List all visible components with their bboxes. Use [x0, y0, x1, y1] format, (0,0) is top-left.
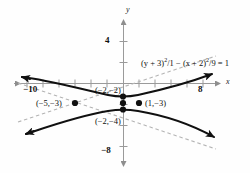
equation-numerator-1: (y + 3)	[141, 58, 164, 68]
point-right	[136, 100, 142, 106]
x-axis-label: x	[226, 78, 230, 86]
y-axis-label: y	[126, 6, 130, 14]
y-tick-label-minus-8: −8	[101, 146, 111, 155]
y-tick-label-4: 4	[105, 36, 110, 45]
x-tick-label-8: 8	[198, 85, 203, 94]
hyperbola-figure: y x 4 −8 −10 8 (−2,−2) (−2,−4) (−5,−3) (…	[0, 0, 250, 173]
point-center	[120, 100, 126, 106]
point-vertex-bottom	[120, 106, 126, 112]
equation-numerator-2: (x + 2)	[183, 58, 206, 68]
point-label-top: (−2,−2)	[95, 86, 121, 95]
equation-denominator-2: /9 = 1	[209, 58, 229, 68]
plot-canvas	[0, 0, 250, 173]
equation-annotation: (y + 3)2/1 − (x + 2)2/9 = 1	[141, 57, 229, 67]
point-label-left: (−5,−3)	[36, 99, 62, 108]
hyperbola-lower-branch-left-arrow	[26, 131, 34, 134]
point-label-right: (1,−3)	[145, 99, 166, 108]
x-tick-label-minus-10: −10	[23, 85, 37, 94]
equation-denominator-1: /1 −	[167, 58, 183, 68]
point-left	[72, 100, 78, 106]
point-label-bottom: (−2,−4)	[95, 117, 121, 126]
